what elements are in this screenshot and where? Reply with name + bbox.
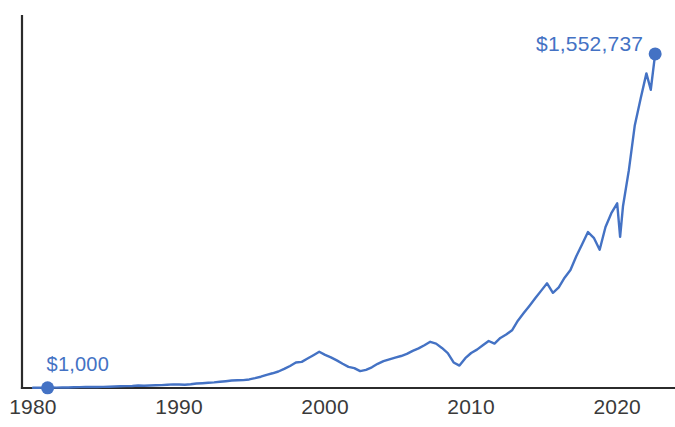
x-tick-label-2000: 2000 bbox=[301, 395, 349, 418]
end-marker bbox=[649, 47, 662, 60]
x-tick-label-group: 19801990200020102020 bbox=[9, 395, 641, 418]
annotation-group: $1,000$1,552,737 bbox=[47, 32, 644, 375]
x-tick-label-2020: 2020 bbox=[593, 395, 641, 418]
start-value-label: $1,000 bbox=[47, 353, 109, 375]
x-tick-label-1990: 1990 bbox=[155, 395, 203, 418]
series-group bbox=[33, 54, 655, 388]
marker-group bbox=[41, 47, 662, 394]
x-tick-label-2010: 2010 bbox=[447, 395, 495, 418]
chart-canvas: 19801990200020102020 $1,000$1,552,737 bbox=[0, 0, 675, 427]
series-line-0 bbox=[33, 54, 655, 388]
axes-group bbox=[22, 16, 675, 388]
x-tick-label-1980: 1980 bbox=[9, 395, 57, 418]
start-marker bbox=[41, 381, 54, 394]
growth-of-investment-chart: 19801990200020102020 $1,000$1,552,737 bbox=[0, 0, 675, 427]
end-value-label: $1,552,737 bbox=[536, 32, 643, 55]
